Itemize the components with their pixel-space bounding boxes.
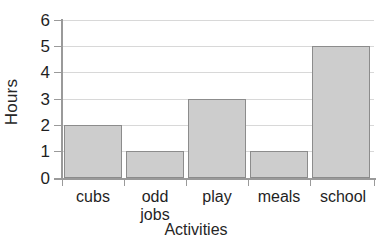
- y-tick-mark-6: [54, 20, 62, 21]
- bar-meals: [250, 151, 308, 178]
- y-tick-mark-0: [54, 178, 62, 179]
- y-tick-label-6: 6: [20, 12, 50, 29]
- y-tick-label-0: 0: [20, 170, 50, 187]
- y-tick-mark-5: [54, 46, 62, 47]
- y-tick-label-1: 1: [20, 143, 50, 160]
- bar-odd-jobs: [126, 151, 184, 178]
- y-tick-label-2: 2: [20, 117, 50, 134]
- x-tick-label-odd-jobs: oddjobs: [124, 188, 186, 224]
- x-tick-label-meals: meals: [248, 188, 310, 206]
- x-tick-mark-1: [124, 178, 125, 186]
- x-axis-line: [54, 178, 376, 180]
- x-tick-mark-4: [310, 178, 311, 186]
- bar-play: [188, 99, 246, 178]
- x-tick-label-play: play: [186, 188, 248, 206]
- bar-school: [312, 46, 370, 178]
- plot-area: [62, 20, 374, 178]
- gridline-6: [62, 20, 374, 21]
- x-tick-label-odd-jobs-line1: odd: [142, 188, 169, 205]
- y-tick-label-5: 5: [20, 38, 50, 55]
- x-axis-title: Activities: [0, 221, 392, 239]
- y-tick-mark-2: [54, 125, 62, 126]
- y-tick-mark-1: [54, 151, 62, 152]
- x-tick-mark-5: [374, 178, 375, 186]
- x-tick-mark-2: [186, 178, 187, 186]
- y-tick-mark-4: [54, 72, 62, 73]
- x-tick-mark-3: [248, 178, 249, 186]
- y-axis-title: Hours: [2, 62, 22, 142]
- x-tick-label-cubs: cubs: [62, 188, 124, 206]
- y-tick-label-3: 3: [20, 91, 50, 108]
- x-tick-mark-0: [62, 178, 63, 186]
- y-tick-label-4: 4: [20, 64, 50, 81]
- y-tick-mark-3: [54, 99, 62, 100]
- bar-chart: Hours 6 5 4 3 2 1 0 cubs oddjobs play m: [0, 0, 392, 244]
- bar-cubs: [64, 125, 122, 178]
- x-tick-label-school: school: [310, 188, 376, 206]
